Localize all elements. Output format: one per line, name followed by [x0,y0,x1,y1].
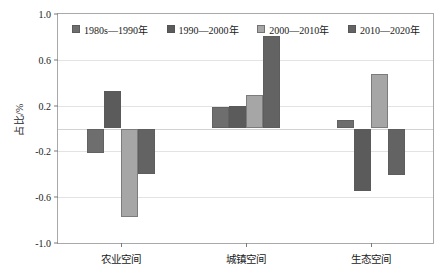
y-tick-label: 0.2 [39,100,52,111]
bar [337,120,354,128]
bar [121,129,138,217]
legend-label: 2010—2020年 [360,22,420,37]
y-tick-mark [54,14,58,15]
zero-baseline [58,129,433,130]
legend-label: 2000—2010年 [269,22,329,37]
bar [212,107,229,129]
y-tick-label: 0.6 [39,54,52,65]
x-tick-mark [246,243,247,247]
bar [388,129,405,176]
bar [246,95,263,128]
bar [87,129,104,153]
y-tick-label: 1.0 [39,9,52,20]
legend-label: 1980s—1990年 [84,22,148,37]
x-tick-label: 城镇空间 [226,251,266,266]
bar [138,129,155,175]
y-tick-mark [54,59,58,60]
bar [371,74,388,129]
chart-legend: 1980s—1990年 1990—2000年 2000—2010年 2010—2… [62,21,430,37]
y-tick-mark [54,105,58,106]
y-tick-label: -1.0 [35,238,51,249]
bar [104,91,121,129]
x-tick-mark [371,243,372,247]
bar [229,106,246,129]
legend-entry[interactable]: 1980s—1990年 [72,22,148,37]
bar-chart-figure: 占比/% 1.00.60.2-0.2-0.6-1.0农业空间城镇空间生态空间 1… [0,0,448,277]
bar [354,129,371,192]
gridline [58,60,433,61]
legend-swatch-icon [257,25,265,33]
legend-entry[interactable]: 2010—2020年 [348,22,420,37]
y-axis-title: 占比/% [11,85,26,155]
legend-entry[interactable]: 2000—2010年 [257,22,329,37]
legend-swatch-icon [348,25,356,33]
y-tick-mark [54,197,58,198]
bar [263,36,280,129]
legend-swatch-icon [72,25,80,33]
plot-area: 1.00.60.2-0.2-0.6-1.0农业空间城镇空间生态空间 [57,13,434,244]
x-tick-mark [121,243,122,247]
y-tick-label: -0.6 [35,192,51,203]
legend-label: 1990—2000年 [179,22,239,37]
legend-swatch-icon [167,25,175,33]
y-tick-mark [54,243,58,244]
y-tick-mark [54,151,58,152]
x-tick-label: 农业空间 [101,251,141,266]
y-tick-label: -0.2 [35,146,51,157]
legend-entry[interactable]: 1990—2000年 [167,22,239,37]
x-tick-label: 生态空间 [351,251,391,266]
gridline [58,151,433,152]
gridline [58,197,433,198]
